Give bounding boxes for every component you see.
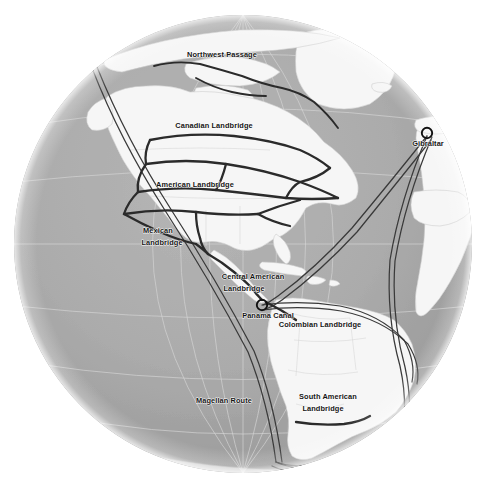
globe-map: Northwest Passage Canadian Landbridge Am… [0, 0, 486, 487]
label-colombian-landbridge: Colombian Landbridge [279, 320, 361, 329]
label-canadian-landbridge: Canadian Landbridge [175, 121, 252, 130]
label-panama-canal: Panama Canal [242, 311, 294, 320]
label-south-american-landbridge-line2: Landbridge [302, 404, 343, 413]
label-northwest-passage: Northwest Passage [187, 50, 257, 59]
label-magellan-route: Magellan Route [196, 396, 252, 405]
label-american-landbridge: American Landbridge [156, 180, 234, 189]
label-mexican-landbridge-line2: Landbridge [141, 238, 182, 247]
label-central-american-landbridge-line2: Landbridge [223, 284, 264, 293]
label-mexican-landbridge-line1: Mexican [143, 226, 173, 235]
label-south-american-landbridge-line1: South American [299, 392, 357, 401]
label-central-american-landbridge-line1: Central American [222, 272, 285, 281]
globe-svg: Northwest Passage Canadian Landbridge Am… [0, 0, 486, 487]
label-gibraltar: Gibraltar [412, 139, 444, 148]
